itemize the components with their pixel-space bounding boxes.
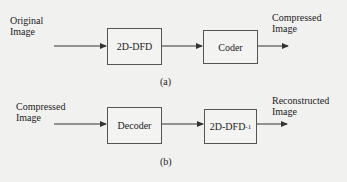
caption-a: (a) [160,76,171,87]
block-2d-dfd-inverse-label: 2D-DFD [210,121,246,132]
block-2d-dfd: 2D-DFD [107,28,162,65]
input-label-line2: Image [16,112,65,123]
input-label-line1: Original [10,15,43,26]
block-2d-dfd-inverse: 2D-DFD-1 [204,109,257,144]
inverse-superscript: -1 [245,123,251,131]
input-label-line2: Image [10,26,43,37]
caption-b: (b) [160,156,172,167]
input-label: Compressed Image [16,101,65,123]
input-label-line1: Compressed [16,101,65,112]
output-label: Reconstructed Image [272,95,329,117]
output-label-line1: Reconstructed [272,95,329,106]
block-coder: Coder [203,30,258,64]
output-label-line2: Image [272,23,321,34]
output-label-line1: Compressed [272,12,321,23]
input-label: Original Image [10,15,43,37]
output-label: Compressed Image [272,12,321,34]
output-label-line2: Image [272,106,329,117]
block-decoder: Decoder [107,107,162,144]
